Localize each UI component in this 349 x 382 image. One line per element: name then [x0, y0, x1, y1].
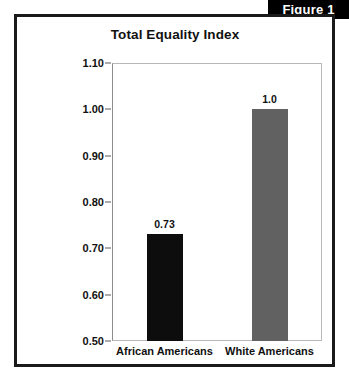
y-axis-labels: 1.101.000.900.800.700.600.50	[30, 63, 104, 341]
y-axis-tickmark	[105, 341, 111, 342]
y-axis-tickmark	[105, 155, 111, 156]
y-axis-tick-label: 0.90	[83, 150, 104, 162]
y-axis-tickmark	[105, 202, 111, 203]
y-axis-tick-label: 1.00	[83, 103, 104, 115]
y-axis-tickmark	[105, 294, 111, 295]
bar-african-americans	[147, 234, 183, 341]
figure-container: Figure 1 Total Equality Index 1.101.000.…	[0, 0, 349, 382]
y-axis-tickmark	[105, 109, 111, 110]
y-axis-tick-label: 0.60	[83, 289, 104, 301]
y-axis-tick-label: 0.80	[83, 196, 104, 208]
x-axis-category-label: African Americans	[105, 345, 225, 357]
y-axis-tick-label: 1.10	[83, 57, 104, 69]
bar-white-americans	[252, 109, 288, 341]
chart-title: Total Equality Index	[60, 27, 290, 42]
y-axis-tickmark	[105, 248, 111, 249]
bar-value-label: 1.0	[240, 93, 300, 105]
y-axis-tick-label: 0.50	[83, 335, 104, 347]
y-axis-tick-label: 0.70	[83, 242, 104, 254]
bar-value-label: 0.73	[135, 218, 195, 230]
y-axis-tickmark	[105, 63, 111, 64]
x-axis-category-label: White Americans	[210, 345, 330, 357]
